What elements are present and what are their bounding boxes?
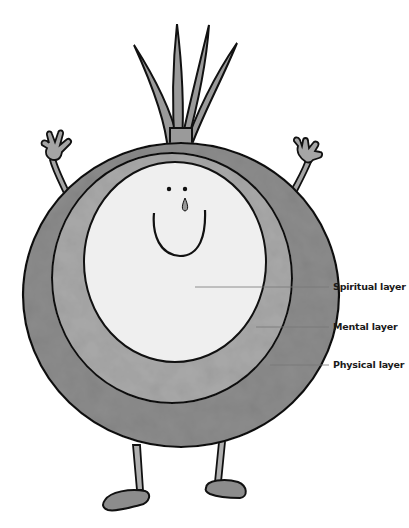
label-mental-layer: Mental layer: [333, 321, 397, 332]
inner-spiritual-layer: [84, 162, 266, 362]
onion-leaves: [134, 24, 237, 156]
label-physical-layer: Physical layer: [333, 359, 404, 370]
left-eye: [167, 187, 171, 191]
feet: [103, 480, 246, 511]
onion-diagram: [0, 0, 409, 528]
label-spiritual-layer: Spiritual layer: [333, 281, 406, 292]
onion-body: [23, 143, 339, 447]
right-eye: [183, 187, 187, 191]
